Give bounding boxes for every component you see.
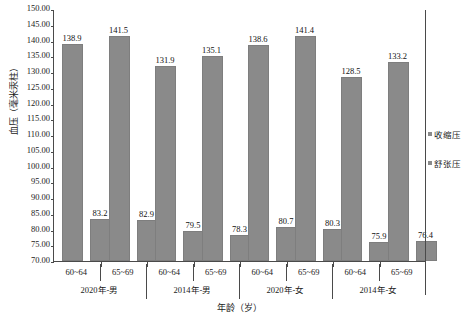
bar-group: 131.979.5	[147, 10, 194, 261]
y-axis-tick-label: 135.00	[6, 50, 50, 60]
y-axis-tick-mark	[51, 120, 54, 121]
y-axis-tick-mark	[51, 57, 54, 58]
bar-value-label: 131.9	[154, 55, 175, 65]
x-axis-group-labels: 2020年-男2014年-男2020年-女2014年-女	[53, 281, 425, 299]
bar-value-label: 128.5	[340, 66, 361, 76]
legend-label: 舒张压	[434, 157, 461, 169]
y-axis-tick-label: 105.00	[6, 145, 50, 155]
x-axis-age-separator	[100, 264, 101, 281]
bar-systolic[interactable]	[388, 62, 409, 261]
x-axis-age-separator	[286, 264, 287, 281]
y-axis-tick-mark	[51, 136, 54, 137]
bar-value-label: 138.9	[61, 33, 82, 43]
y-axis-tick-mark	[51, 246, 54, 247]
x-axis-group-separator	[332, 281, 333, 299]
y-axis-tick-label: 100.00	[6, 161, 50, 171]
x-axis-group-label: 2020年-男	[53, 281, 146, 299]
y-axis-tick-label: 125.00	[6, 82, 50, 92]
legend-entry[interactable]: 舒张压	[428, 157, 468, 169]
y-axis-tick-label: 110.00	[6, 129, 50, 139]
y-axis-tick-label: 115.00	[6, 113, 50, 123]
bar-group: 141.480.3	[287, 10, 334, 261]
y-axis-tick-mark	[51, 26, 54, 27]
bars-layer: 138.983.2141.582.9131.979.5135.178.3138.…	[54, 10, 425, 261]
y-axis-tick-mark	[51, 215, 54, 216]
x-axis-age-separator	[193, 264, 194, 281]
x-axis-group-separator	[146, 281, 147, 299]
y-axis-tick-label: 70.00	[6, 255, 50, 265]
y-axis-tick-mark	[51, 199, 54, 200]
x-axis-group-label: 2014年-男	[146, 281, 239, 299]
x-axis-age-label: 60~64	[239, 264, 286, 281]
x-axis-age-labels: 60~6465~6960~6465~6960~6465~6960~6465~69	[53, 264, 425, 281]
bar-group: 138.680.7	[240, 10, 287, 261]
x-axis-age-separator	[425, 264, 426, 281]
x-axis-age-separator	[239, 264, 240, 281]
y-axis-tick-label: 90.00	[6, 192, 50, 202]
y-axis-tick-mark	[51, 105, 54, 106]
x-axis-group-label: 2014年-女	[332, 281, 425, 299]
bar-systolic[interactable]	[62, 44, 83, 261]
x-axis-age-separator	[146, 264, 147, 281]
y-axis-tick-labels: 150.00145.00140.00135.00130.00125.00120.…	[6, 8, 50, 262]
bar-group: 135.178.3	[194, 10, 241, 261]
y-axis-tick-mark	[51, 152, 54, 153]
x-axis-age-label: 60~64	[146, 264, 193, 281]
bar-value-label: 141.4	[294, 25, 315, 35]
bar-systolic[interactable]	[295, 36, 316, 261]
bar-group: 138.983.2	[54, 10, 101, 261]
x-axis-age-separator	[332, 264, 333, 281]
y-axis-tick-mark	[51, 73, 54, 74]
legend-label: 收缩压	[434, 128, 461, 140]
y-axis-tick-mark	[51, 183, 54, 184]
y-axis-tick-label: 85.00	[6, 208, 50, 218]
plot-area: 138.983.2141.582.9131.979.5135.178.3138.…	[53, 10, 425, 262]
x-axis-age-label: 60~64	[332, 264, 379, 281]
y-axis-tick-label: 130.00	[6, 66, 50, 76]
plot-right-boundary	[425, 10, 426, 295]
bar-diastolic[interactable]	[416, 241, 437, 261]
y-axis-tick-label: 95.00	[6, 176, 50, 186]
bar-systolic[interactable]	[248, 45, 269, 261]
bar-value-label: 135.1	[201, 45, 222, 55]
bar-value-label: 133.2	[387, 51, 408, 61]
y-axis-tick-mark	[51, 168, 54, 169]
y-axis-tick-label: 75.00	[6, 239, 50, 249]
x-axis-age-separator	[379, 264, 380, 281]
y-axis-tick-mark	[51, 42, 54, 43]
x-axis-group-separator	[239, 281, 240, 299]
x-axis-age-label: 65~69	[100, 264, 147, 281]
bar-systolic[interactable]	[341, 77, 362, 261]
bar-systolic[interactable]	[202, 56, 223, 261]
x-axis-age-label: 60~64	[53, 264, 100, 281]
x-axis-title: 年龄（岁）	[53, 301, 425, 314]
y-axis-tick-label: 145.00	[6, 19, 50, 29]
bar-value-label: 141.5	[108, 25, 129, 35]
x-axis-age-label: 65~69	[193, 264, 240, 281]
bar-value-label: 138.6	[247, 34, 268, 44]
y-axis-tick-label: 150.00	[6, 3, 50, 13]
chart-legend: 收缩压舒张压	[428, 128, 468, 186]
bar-chart: 血压（毫米汞柱） 150.00145.00140.00135.00130.001…	[0, 0, 468, 325]
legend-swatch-icon	[428, 132, 432, 136]
legend-swatch-icon	[428, 161, 432, 165]
bar-group: 133.276.4	[380, 10, 427, 261]
bar-group: 141.582.9	[101, 10, 148, 261]
x-axis-group-label: 2020年-女	[239, 281, 332, 299]
y-axis-tick-label: 140.00	[6, 35, 50, 45]
y-axis-tick-label: 120.00	[6, 98, 50, 108]
bar-systolic[interactable]	[109, 36, 130, 261]
y-axis-tick-mark	[51, 10, 54, 11]
y-axis-tick-label: 80.00	[6, 224, 50, 234]
y-axis-tick-mark	[51, 89, 54, 90]
legend-entry[interactable]: 收缩压	[428, 128, 468, 140]
x-axis-age-label: 65~69	[379, 264, 426, 281]
y-axis-tick-mark	[51, 231, 54, 232]
bar-systolic[interactable]	[155, 66, 176, 261]
x-axis-age-label: 65~69	[286, 264, 333, 281]
y-axis-tick-mark	[51, 262, 54, 263]
bar-group: 128.575.9	[333, 10, 380, 261]
